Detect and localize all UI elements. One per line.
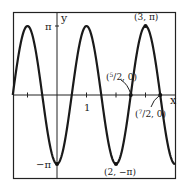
annotation-zero-5-2: (5/2, 0) bbox=[106, 71, 137, 82]
point-marker bbox=[144, 24, 148, 28]
leader-line-7-2 bbox=[151, 95, 160, 107]
y-axis-label: y bbox=[60, 12, 68, 25]
point-marker bbox=[55, 162, 59, 166]
chart-svg: y x π −π 1 (3, π) (2, −π) (5/2, 0) (7/2,… bbox=[0, 0, 181, 185]
y-tick-label-pi: π bbox=[45, 21, 52, 32]
x-axis-label: x bbox=[170, 94, 177, 107]
annotation-zero-7-2: (7/2, 0) bbox=[135, 108, 166, 119]
annotation-trough: (2, −π) bbox=[104, 167, 136, 177]
point-marker bbox=[114, 162, 118, 166]
leader-line-5-2 bbox=[121, 80, 131, 95]
x-tick-label-1: 1 bbox=[84, 102, 90, 113]
annotation-peak: (3, π) bbox=[134, 12, 158, 22]
y-tick-label-neg-pi: −π bbox=[36, 159, 51, 170]
